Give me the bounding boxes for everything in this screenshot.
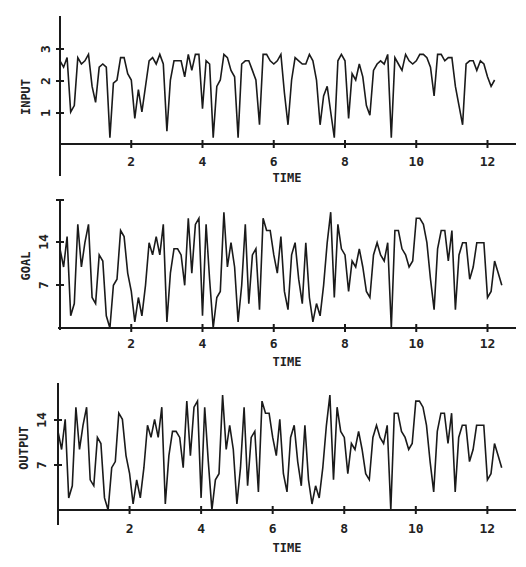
x-tick-12: 12 <box>480 154 496 169</box>
y-tick-1: 1 <box>38 109 53 117</box>
output-series-line <box>58 395 502 510</box>
x-tick-12: 12 <box>480 521 496 536</box>
y-tick-14: 14 <box>34 412 49 428</box>
y-tick-2: 2 <box>38 77 53 85</box>
x-tick-2: 2 <box>126 521 134 536</box>
input-chart-panel: 3 2 1 INPUT 24681012 TIME <box>0 0 526 190</box>
x-axis-label: TIME <box>273 171 302 185</box>
goal-chart: 14 7 GOAL 24681012 TIME <box>0 190 526 375</box>
y-tick-7: 7 <box>34 461 49 469</box>
goal-series-line <box>60 212 502 328</box>
x-tick-4: 4 <box>197 521 205 536</box>
y-axis-label: INPUT <box>19 79 33 115</box>
x-axis-label: TIME <box>273 355 302 369</box>
x-tick-12: 12 <box>480 336 496 351</box>
y-axis <box>54 383 62 525</box>
x-tick-4: 4 <box>199 336 207 351</box>
x-tick-10: 10 <box>408 336 424 351</box>
x-tick-2: 2 <box>127 154 135 169</box>
goal-chart-panel: 14 7 GOAL 24681012 TIME <box>0 190 526 375</box>
x-axis-label: TIME <box>273 541 302 555</box>
y-axis <box>56 16 64 176</box>
x-tick-8: 8 <box>341 154 349 169</box>
x-tick-8: 8 <box>341 336 349 351</box>
x-tick-8: 8 <box>340 521 348 536</box>
x-tick-4: 4 <box>199 154 207 169</box>
y-axis-label: GOAL <box>19 252 33 281</box>
y-tick-14: 14 <box>36 234 51 250</box>
x-tick-10: 10 <box>408 521 424 536</box>
x-tick-6: 6 <box>270 154 278 169</box>
x-tick-2: 2 <box>127 336 135 351</box>
x-tick-10: 10 <box>408 154 424 169</box>
output-chart-panel: 14 7 OUTPUT 24681012 TIME <box>0 375 526 567</box>
y-tick-3: 3 <box>38 45 53 53</box>
x-tick-6: 6 <box>269 521 277 536</box>
x-tick-6: 6 <box>270 336 278 351</box>
input-series-line <box>60 54 495 137</box>
y-tick-7: 7 <box>36 281 51 289</box>
y-axis-label: OUTPUT <box>17 426 31 469</box>
input-chart: 3 2 1 INPUT 24681012 TIME <box>0 0 526 190</box>
output-chart: 14 7 OUTPUT 24681012 TIME <box>0 375 526 567</box>
